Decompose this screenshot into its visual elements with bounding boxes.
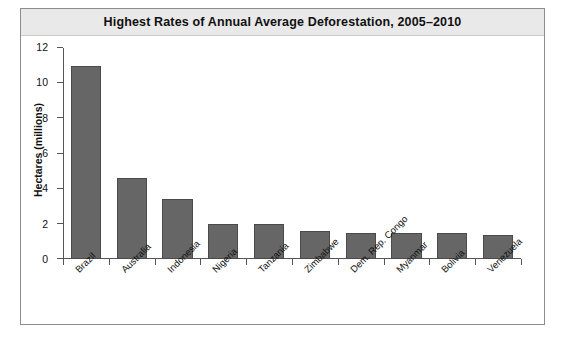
x-axis-tick (200, 259, 201, 265)
y-axis-tick-label: 6 (42, 147, 48, 159)
x-axis-tick (292, 259, 293, 265)
y-axis-tick-label: 4 (42, 182, 48, 194)
y-axis-tick: 8 (57, 117, 63, 118)
x-axis-tick (521, 259, 522, 265)
x-axis-tick (338, 259, 339, 265)
chart-figure-frame: Highest Rates of Annual Average Deforest… (20, 8, 545, 325)
x-axis-tick (155, 259, 156, 265)
y-axis-tick-label: 10 (36, 76, 48, 88)
x-axis-tick (63, 259, 64, 265)
x-axis-tick (384, 259, 385, 265)
chart-title: Highest Rates of Annual Average Deforest… (104, 15, 462, 29)
y-axis-tick-label: 12 (36, 41, 48, 53)
y-axis-line (63, 48, 64, 259)
y-axis-tick: 6 (57, 153, 63, 154)
x-axis-labels: BrazilAustraliaIndonesiaNigeriaTanzaniaZ… (63, 267, 521, 327)
chart-title-band: Highest Rates of Annual Average Deforest… (21, 9, 544, 36)
y-axis-tick: 4 (57, 188, 63, 189)
y-axis-tick: 10 (57, 82, 63, 83)
bar (71, 66, 101, 259)
y-axis-tick: 2 (57, 223, 63, 224)
plot-area: 024681012 (63, 48, 521, 259)
x-axis-tick (246, 259, 247, 265)
x-axis-tick (475, 259, 476, 265)
x-axis-tick (109, 259, 110, 265)
chart-body: Hectares (millions) 024681012 BrazilAust… (21, 36, 544, 324)
y-axis-tick: 12 (57, 47, 63, 48)
y-axis-tick-label: 0 (42, 253, 48, 265)
x-axis-tick (429, 259, 430, 265)
y-axis-tick-label: 2 (42, 218, 48, 230)
y-axis-tick-label: 8 (42, 112, 48, 124)
